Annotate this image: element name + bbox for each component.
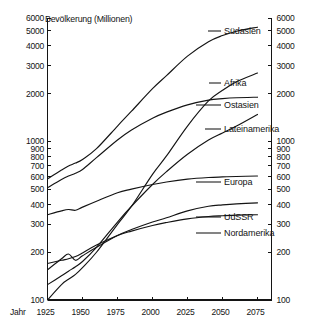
chart-canvas xyxy=(0,0,319,328)
series-lines xyxy=(48,27,258,300)
y-axis-label-left-300: 300 xyxy=(8,219,44,229)
y-axis-label-right-2000: 2000 xyxy=(277,89,295,99)
series-label-ostasien: Ostasien xyxy=(224,100,259,110)
series-label-europa: Europa xyxy=(224,177,252,187)
series-label-udssr: UdSSR xyxy=(224,212,254,222)
series-label-südasien: Südasien xyxy=(224,26,261,36)
x-axis-label-2025: 2025 xyxy=(177,307,195,317)
x-axis-label-1925: 1925 xyxy=(37,307,55,317)
x-axis-label-1950: 1950 xyxy=(72,307,90,317)
y-axis-label-left-100: 100 xyxy=(8,295,44,305)
y-axis-label-right-5000: 5000 xyxy=(277,26,295,36)
y-axis-label-right-1000: 1000 xyxy=(277,136,295,146)
y-axis-label-right-3000: 3000 xyxy=(277,61,295,71)
y-axis-label-left-400: 400 xyxy=(8,200,44,210)
y-axis-label-right-600: 600 xyxy=(277,172,291,182)
x-axis-label-2050: 2050 xyxy=(212,307,230,317)
y-axis-label-right-100: 100 xyxy=(277,295,291,305)
y-axis-label-right-700: 700 xyxy=(277,161,291,171)
x-axis-label-2075: 2075 xyxy=(247,307,265,317)
y-axis-label-left-600: 600 xyxy=(8,172,44,182)
series-label-nordamerika: Nordamerika xyxy=(224,228,274,238)
y-axis-label-right-6000: 6000 xyxy=(277,13,295,23)
y-axis-label-right-200: 200 xyxy=(277,247,291,257)
axes xyxy=(48,18,272,300)
y-axis-label-left-2000: 2000 xyxy=(8,89,44,99)
y-axis-label-left-700: 700 xyxy=(8,161,44,171)
y-axis-label-left-500: 500 xyxy=(8,184,44,194)
x-axis-label-1975: 1975 xyxy=(107,307,125,317)
x-axis-label-2000: 2000 xyxy=(142,307,160,317)
y-axis-label-left-200: 200 xyxy=(8,247,44,257)
y-axis-label-left-6000: 6000 xyxy=(8,13,44,23)
y-axis-label-left-5000: 5000 xyxy=(8,26,44,36)
y-axis-label-right-4000: 4000 xyxy=(277,41,295,51)
y-axis-label-right-300: 300 xyxy=(277,219,291,229)
y-axis-label-left-1000: 1000 xyxy=(8,136,44,146)
y-axis-label-left-4000: 4000 xyxy=(8,41,44,51)
y-axis-label-left-3000: 3000 xyxy=(8,61,44,71)
y-axis-label-right-400: 400 xyxy=(277,200,291,210)
series-label-lateinamerika: Lateinamerika xyxy=(224,124,279,134)
y-axis-label-right-500: 500 xyxy=(277,184,291,194)
series-label-afrika: Afrika xyxy=(224,78,246,88)
population-chart: Bevölkerung (Millionen) Jahr 10020030040… xyxy=(0,0,319,328)
